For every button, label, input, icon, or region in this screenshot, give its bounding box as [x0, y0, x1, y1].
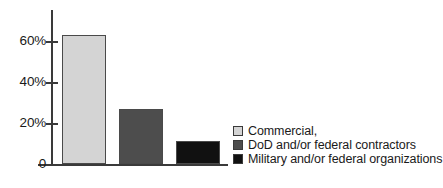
- bar-military-federal-organizations: [176, 141, 220, 164]
- y-tick-label-60-wrap: 60%: [0, 41, 46, 42]
- x-axis-baseline: [38, 164, 228, 166]
- legend-item-dod: DoD and/or federal contractors: [233, 138, 442, 152]
- y-tick-label-0: 0: [2, 157, 46, 171]
- y-tick-label-20-wrap: 20%: [0, 123, 46, 124]
- bar-dod-federal-contractors: [119, 109, 163, 164]
- legend-item-commercial: Commercial,: [233, 124, 442, 138]
- y-tick-label-40-wrap: 40%: [0, 82, 46, 83]
- y-tick-40: [46, 82, 58, 84]
- bar-commercial: [62, 35, 106, 164]
- y-tick-label-0-wrap: 0: [0, 164, 46, 165]
- legend-label-commercial: Commercial,: [248, 124, 317, 138]
- legend-label-military: Military and/or federal organizations: [248, 152, 442, 166]
- y-tick-label-20: 20%: [2, 116, 46, 130]
- legend-label-dod: DoD and/or federal contractors: [248, 138, 416, 152]
- legend: Commercial, DoD and/or federal contracto…: [233, 124, 442, 166]
- legend-item-military: Military and/or federal organizations: [233, 152, 442, 166]
- y-axis-line: [51, 10, 53, 166]
- legend-swatch-icon-dod: [233, 140, 243, 150]
- y-tick-20: [46, 123, 58, 125]
- legend-swatch-icon-commercial: [233, 126, 243, 136]
- legend-swatch-icon-military: [233, 154, 243, 164]
- y-tick-label-40: 40%: [2, 75, 46, 89]
- y-tick-60: [46, 41, 58, 43]
- bar-chart: 60% 40% 20% 0 Commercial, DoD and/or fed…: [0, 0, 443, 188]
- y-tick-label-60: 60%: [2, 34, 46, 48]
